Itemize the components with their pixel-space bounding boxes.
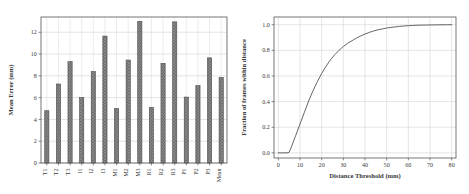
xtick-label-M1: M1: [112, 168, 118, 176]
ytick-label-4: 4: [34, 117, 37, 123]
bar-T3: [68, 62, 72, 163]
cdf-y-axis-title: Fraction of frames within distance: [240, 39, 247, 136]
xtick-label-60: 60: [405, 162, 411, 168]
bar-T1: [45, 111, 49, 163]
ytick-label-2: 2: [34, 138, 37, 144]
bar-chart-panel: 024681012T1T2T3I1I2I3M1M2M3R1R2R3P1P2P3M…: [0, 0, 235, 194]
xtick-label-M3: M3: [135, 168, 141, 176]
xtick-label-80: 80: [449, 162, 455, 168]
bar-M3: [138, 21, 142, 163]
xtick-label-P1: P1: [181, 168, 187, 174]
xtick-label-Mean: Mean: [216, 168, 222, 182]
xtick-label-T2: T2: [53, 168, 59, 175]
fraction-within-distance-line-chart: 0.00.20.40.60.81.001020304050607080Dista…: [234, 0, 469, 194]
xtick-label-R2: R2: [158, 168, 164, 175]
cdf-y-axis: 0.00.20.40.60.81.0: [262, 22, 274, 156]
mean-error-bar-chart: 024681012T1T2T3I1I2I3M1M2M3R1R2R3P1P2P3M…: [0, 0, 235, 194]
cdf-x-axis-title: Distance Threshold (mm): [329, 172, 401, 180]
bar-series: [45, 21, 224, 163]
xtick-label-P3: P3: [205, 168, 211, 174]
cdf-chart-panel: 0.00.20.40.60.81.001020304050607080Dista…: [234, 0, 469, 194]
bar-T2: [56, 84, 60, 163]
xtick-label-50: 50: [384, 162, 390, 168]
xtick-label-M2: M2: [123, 168, 129, 176]
bar-R3: [173, 22, 177, 163]
ytick-label-0.8: 0.8: [262, 47, 270, 53]
xtick-label-P2: P2: [193, 168, 199, 174]
bar-M2: [126, 60, 130, 163]
ytick-label-6: 6: [34, 95, 37, 101]
bar-x-axis: T1T2T3I1I2I3M1M2M3R1R2R3P1P2P3Mean: [42, 163, 222, 182]
xtick-label-70: 70: [427, 162, 433, 168]
ytick-label-12: 12: [31, 29, 37, 35]
ytick-label-0.2: 0.2: [262, 124, 270, 130]
bar-R1: [149, 107, 153, 163]
bar-I3: [103, 36, 107, 163]
xtick-label-R3: R3: [170, 168, 176, 175]
bar-y-axis: 024681012: [31, 29, 41, 166]
xtick-label-I2: I2: [88, 168, 94, 173]
xtick-label-R1: R1: [146, 168, 152, 175]
xtick-label-40: 40: [362, 162, 368, 168]
cdf-x-axis: 01020304050607080: [277, 158, 455, 168]
ytick-label-0.4: 0.4: [262, 99, 270, 105]
xtick-label-T1: T1: [42, 168, 48, 175]
xtick-label-20: 20: [319, 162, 325, 168]
bar-I1: [80, 98, 84, 163]
ytick-label-0.6: 0.6: [262, 73, 270, 79]
xtick-label-0: 0: [277, 162, 280, 168]
bar-Mean: [219, 77, 223, 163]
xtick-label-10: 10: [297, 162, 303, 168]
bar-P2: [196, 86, 200, 163]
bar-P1: [184, 97, 188, 163]
bar-y-axis-title: Mean Error (mm): [7, 64, 15, 115]
bar-M1: [114, 109, 118, 163]
bar-R2: [161, 63, 165, 163]
bar-I2: [91, 71, 95, 163]
xtick-label-30: 30: [340, 162, 346, 168]
xtick-label-I3: I3: [100, 168, 106, 173]
cdf-gridlines: [274, 17, 456, 158]
ytick-label-10: 10: [31, 51, 37, 57]
bar-P3: [207, 58, 211, 163]
figure-container: 024681012T1T2T3I1I2I3M1M2M3R1R2R3P1P2P3M…: [0, 0, 469, 194]
ytick-label-8: 8: [34, 73, 37, 79]
ytick-label-1.0: 1.0: [262, 22, 270, 28]
ytick-label-0.0: 0.0: [262, 150, 270, 156]
xtick-label-I1: I1: [77, 168, 83, 173]
xtick-label-T3: T3: [65, 168, 71, 175]
ytick-label-0: 0: [34, 160, 37, 166]
